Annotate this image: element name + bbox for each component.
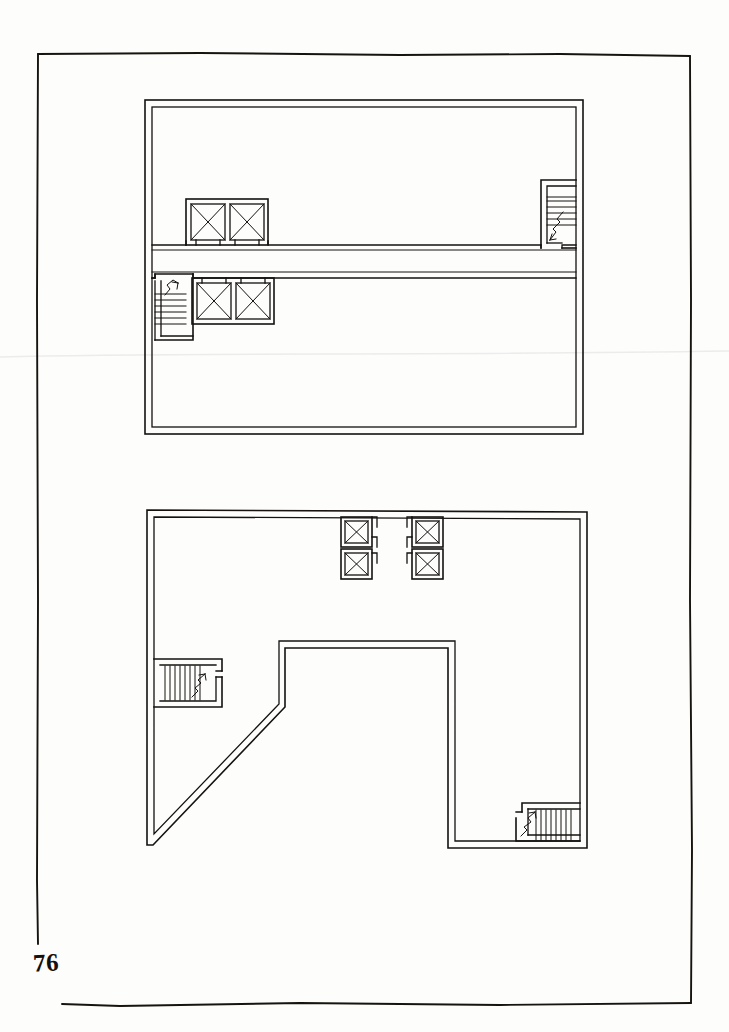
elevator-shaft (236, 278, 270, 319)
upper-plan-exterior-wall (145, 100, 583, 434)
floor-plan-drawing-canvas: .ink { stroke: #15120f; fill: none; stro… (0, 0, 729, 1032)
elevator-shaft (341, 517, 377, 547)
lower-plan-exterior-wall (147, 510, 587, 848)
upper-plan-stair-right (541, 180, 576, 248)
stair-direction-arrow (192, 674, 206, 697)
stair-direction-arrow (550, 212, 563, 240)
hand-drawn-page-border (37, 53, 692, 1006)
page-number: 76 (32, 948, 59, 977)
upper-plan-elevator-bank-north (186, 199, 268, 245)
lower-plan-stair-bottom-right (516, 803, 580, 841)
upper-plan-elevator-bank-south (192, 278, 274, 324)
upper-floor-plan (145, 100, 583, 434)
elevator-shaft (407, 549, 443, 579)
stair-direction-arrow (165, 280, 178, 295)
lower-plan-stair-left (154, 659, 222, 707)
elevator-shaft (407, 517, 443, 547)
elevator-shaft (230, 204, 264, 245)
lower-plan-elevator-bank-right (407, 517, 443, 579)
lower-floor-plan (147, 510, 587, 848)
drawing-sheet: .ink { stroke: #15120f; fill: none; stro… (0, 0, 729, 1032)
upper-plan-stair-left (152, 274, 193, 340)
lower-plan-elevator-bank-left (341, 517, 377, 579)
paper-fold-crease (0, 351, 729, 357)
elevator-shaft (191, 204, 225, 245)
upper-plan-central-corridor (152, 241, 576, 278)
elevator-shaft (197, 278, 231, 319)
elevator-shaft (341, 549, 377, 579)
